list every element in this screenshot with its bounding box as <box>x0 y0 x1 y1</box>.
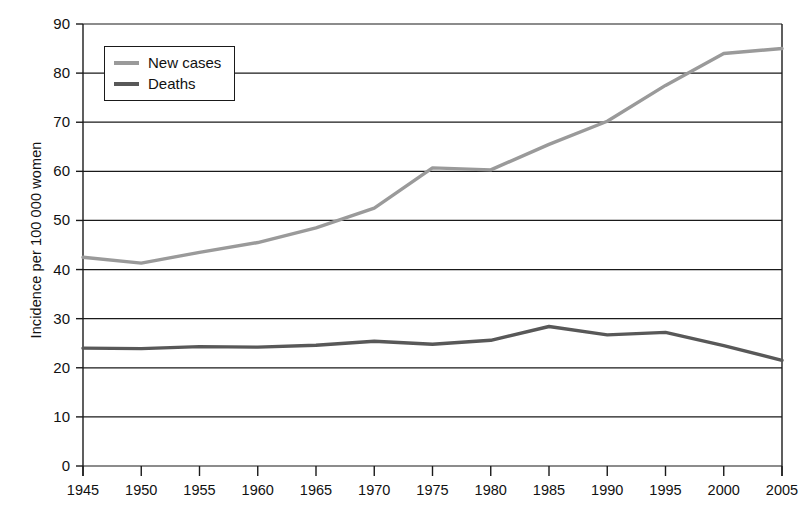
legend-item: Deaths <box>114 73 221 94</box>
line-chart: Incidence per 100 000 women 010203040506… <box>0 0 806 518</box>
series-line-deaths <box>83 327 782 361</box>
legend-swatch-icon <box>114 82 139 86</box>
legend-swatch-icon <box>114 61 139 65</box>
legend-label: Deaths <box>148 76 196 91</box>
legend-label: New cases <box>148 55 221 70</box>
legend-item: New cases <box>114 52 221 73</box>
chart-legend: New casesDeaths <box>104 46 235 101</box>
